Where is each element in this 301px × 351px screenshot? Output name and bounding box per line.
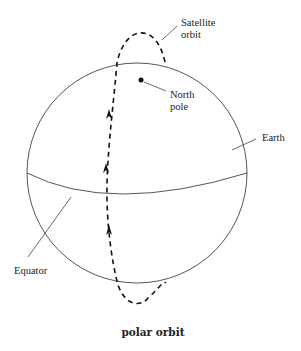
earth-sphere <box>27 63 247 283</box>
north-pole-label-1: North <box>170 89 195 100</box>
equator-leader <box>28 197 71 257</box>
equator-line <box>27 173 247 194</box>
north-pole-leader <box>144 82 166 91</box>
equator-label: Equator <box>14 265 48 276</box>
north-pole-label-2: pole <box>170 101 188 112</box>
satellite-orbit-leader <box>162 26 177 40</box>
satellite-orbit-label-1: Satellite <box>181 17 216 28</box>
polar-orbit-diagram: Satellite orbit North pole Earth Equator… <box>0 0 301 351</box>
orbit-arrow-icon <box>106 109 112 119</box>
diagram-caption: polar orbit <box>121 326 184 338</box>
earth-label: Earth <box>262 132 285 143</box>
satellite-orbit-label-2: orbit <box>181 29 201 40</box>
satellite-orbit-path <box>107 33 166 304</box>
north-pole-dot <box>139 78 144 83</box>
